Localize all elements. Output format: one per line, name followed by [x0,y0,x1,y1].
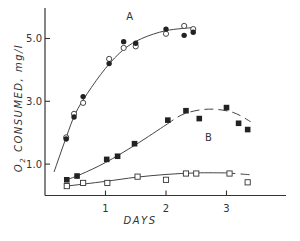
open-square-marker [183,171,188,176]
filled-square-marker [132,141,138,147]
open-square-marker [81,180,86,185]
y-tick-label: 3.0 [26,96,42,107]
curve-c-solid [67,173,227,186]
filled-circle-marker [163,26,168,31]
open-square-marker [227,171,232,176]
filled-square-marker [224,105,230,111]
open-circle-marker [107,56,112,61]
filled-circle-marker [133,41,138,46]
filled-circle-marker [71,114,76,119]
open-square-marker [135,174,140,179]
curve-label-b: B [205,132,212,143]
fitted-curves [54,28,251,187]
filled-circle-marker [121,39,126,44]
x-axis-title: DAYS [124,215,157,226]
filled-circle-marker [80,94,85,99]
x-tick-label: 2 [163,203,169,214]
x-ticks: 123 [102,191,229,215]
data-points [63,23,250,188]
open-square-marker [64,183,69,188]
y-axis-title-o: O [13,163,24,172]
open-circle-marker [81,100,86,105]
filled-square-marker [104,157,110,163]
y-tick-label: 5.0 [26,33,42,44]
open-circle-marker [182,23,187,28]
y-axis-title-rest: CONSUMED, mg/l [13,44,24,157]
x-tick-label: 3 [223,203,229,214]
open-circle-marker [163,31,168,36]
x-tick-label: 1 [102,203,108,214]
filled-circle-marker [181,33,186,38]
open-square-marker [245,180,250,185]
y-axis-title: O2 CONSUMED, mg/l [13,44,27,172]
oxygen-consumption-chart: 123 1.03.05.0 AB DAYS O2 CONSUMED, mg/l [0,0,300,241]
open-square-marker [194,171,199,176]
filled-square-marker [236,120,242,126]
filled-circle-marker [106,61,111,66]
y-tick-label: 1.0 [26,159,42,170]
filled-square-marker [165,117,171,123]
filled-square-marker [115,153,121,159]
y-ticks: 1.03.05.0 [26,33,50,170]
filled-circle-marker [63,136,68,141]
filled-circle-marker [191,30,196,35]
filled-square-marker [64,177,70,183]
filled-square-marker [245,127,251,133]
filled-square-marker [183,108,189,114]
open-square-marker [163,177,168,182]
filled-square-marker [74,173,80,179]
open-circle-marker [121,45,126,50]
curve-b-solid [67,125,166,180]
curve-label-a: A [126,11,133,22]
open-square-marker [105,180,110,185]
filled-square-marker [196,116,202,122]
